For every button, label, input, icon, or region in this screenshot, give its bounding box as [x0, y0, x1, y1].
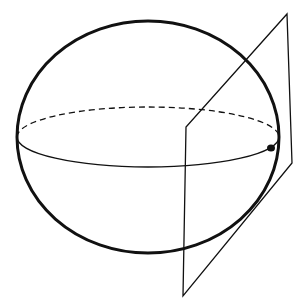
tangent-plane — [183, 14, 292, 296]
equator-front — [17, 137, 279, 167]
sphere-outline — [17, 21, 279, 253]
sphere-tangent-plane-diagram — [0, 0, 305, 307]
tangent-point — [267, 145, 275, 152]
equator-back-dashed — [17, 107, 279, 137]
